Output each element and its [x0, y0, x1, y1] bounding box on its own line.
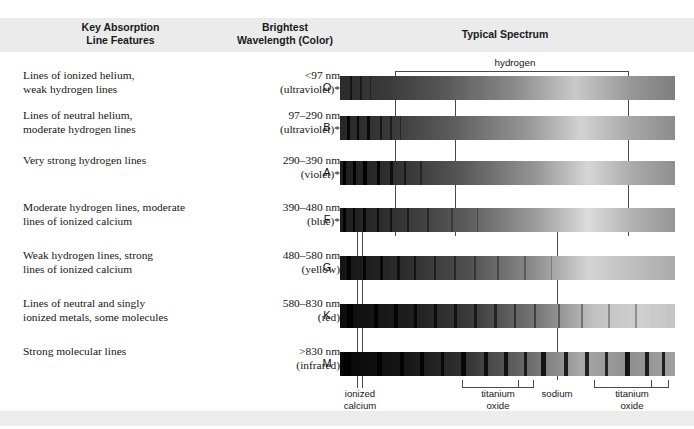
spectral-class-letter-a: A	[320, 166, 334, 178]
absorption-line	[404, 161, 406, 185]
absorption-line	[625, 352, 630, 376]
absorption-line	[608, 304, 610, 328]
absorption-line	[377, 208, 379, 232]
absorption-line	[454, 256, 456, 280]
absorption-lines-m	[340, 352, 675, 376]
absorption-line	[390, 208, 392, 232]
absorption-line	[377, 161, 380, 185]
absorption-line	[524, 352, 527, 376]
annotation-titanium-oxide-2-line1: titanium	[592, 388, 672, 400]
absorption-lines-k	[340, 304, 675, 328]
absorption-line	[397, 256, 400, 280]
spectrum-strip-f	[340, 208, 675, 232]
spectrum-strip-m	[340, 352, 675, 376]
spectrum-strip-b	[340, 116, 675, 140]
absorption-line	[461, 352, 466, 376]
absorption-line	[390, 161, 393, 185]
absorption-line	[347, 256, 351, 280]
absorption-line	[343, 208, 346, 232]
absorption-line	[474, 304, 477, 328]
ionized-calcium-tick-b	[362, 380, 363, 388]
absorption-line	[564, 352, 568, 376]
column-header-key-absorption-line2: Line Features	[28, 34, 213, 47]
absorption-line	[374, 304, 378, 328]
column-header-brightest-line2: Wavelength (Color)	[205, 34, 365, 47]
absorption-line	[484, 352, 488, 376]
annotation-titanium-oxide-2-line2: oxide	[592, 400, 672, 412]
annotation-sodium: sodium	[522, 388, 592, 400]
annotation-ionized-calcium-line1: ionized	[320, 388, 400, 400]
absorption-line	[400, 352, 404, 376]
absorption-line	[451, 208, 453, 232]
absorption-line	[353, 208, 355, 232]
annotation-ionized-calcium-line2: calcium	[320, 400, 400, 412]
absorption-line	[367, 116, 370, 140]
ionized-calcium-tick-a	[357, 380, 358, 388]
spectrum-strip-o	[340, 76, 675, 100]
hydrogen-label: hydrogen	[455, 57, 575, 68]
absorption-line	[380, 116, 382, 140]
spectral-class-letter-f: F	[320, 213, 334, 225]
titanium-oxide-2-right-tick	[668, 380, 669, 388]
titanium-oxide-2-mid-tick	[651, 380, 652, 388]
absorption-line	[534, 304, 536, 328]
absorption-line	[635, 304, 637, 328]
absorption-line	[497, 256, 499, 280]
titanium-oxide-1-right-tick	[533, 380, 534, 388]
spectral-class-letter-k: K	[320, 309, 334, 321]
annotation-titanium-oxide-1-line2: oxide	[458, 400, 538, 412]
absorption-line	[363, 256, 366, 280]
absorption-line	[494, 304, 497, 328]
absorption-line	[370, 76, 371, 100]
titanium-oxide-2-left-tick	[594, 380, 595, 388]
absorption-line	[353, 161, 356, 185]
absorption-line	[662, 352, 665, 376]
spectral-class-letter-m: M	[320, 357, 334, 369]
absorption-line	[605, 352, 608, 376]
absorption-line	[434, 304, 437, 328]
annotation-sodium-line1: sodium	[522, 388, 592, 400]
absorption-line	[514, 304, 516, 328]
absorption-line	[558, 304, 560, 328]
absorption-line	[420, 161, 422, 185]
absorption-line	[454, 304, 457, 328]
absorption-line	[407, 208, 409, 232]
absorption-line	[390, 116, 392, 140]
absorption-line	[420, 352, 424, 376]
absorption-line	[400, 116, 401, 140]
spectrum-strip-k	[340, 304, 675, 328]
column-header-brightest-line1: Brightest	[205, 21, 365, 34]
absorption-line	[474, 256, 476, 280]
absorption-line	[414, 256, 416, 280]
spectral-class-letter-o: O	[320, 81, 334, 93]
titanium-oxide-1-left-tick	[462, 380, 463, 388]
spectrum-strip-a	[340, 161, 675, 185]
absorption-line	[504, 352, 508, 376]
absorption-line	[394, 304, 398, 328]
absorption-line	[585, 352, 589, 376]
absorption-lines-g	[340, 256, 675, 280]
absorption-line	[581, 304, 583, 328]
absorption-line	[363, 208, 366, 232]
absorption-line	[377, 352, 382, 376]
absorption-line	[645, 352, 649, 376]
absorption-lines-o	[340, 76, 675, 100]
absorption-lines-a	[340, 161, 675, 185]
footer-band	[0, 411, 694, 426]
absorption-line	[434, 256, 436, 280]
column-header-brightest-wavelength: Brightest Wavelength (Color)	[205, 21, 365, 46]
absorption-line	[347, 116, 350, 140]
absorption-line	[363, 161, 367, 185]
column-header-typical-spectrum: Typical Spectrum	[380, 28, 630, 41]
absorption-line	[380, 256, 383, 280]
absorption-line	[541, 352, 546, 376]
absorption-line	[477, 208, 478, 232]
absorption-line	[343, 352, 351, 376]
absorption-lines-b	[340, 116, 675, 140]
absorption-line	[441, 352, 444, 376]
absorption-line	[343, 161, 346, 185]
absorption-line	[357, 116, 359, 140]
absorption-line	[350, 76, 352, 100]
column-header-key-absorption: Key Absorption Line Features	[28, 21, 213, 46]
absorption-line	[524, 256, 526, 280]
